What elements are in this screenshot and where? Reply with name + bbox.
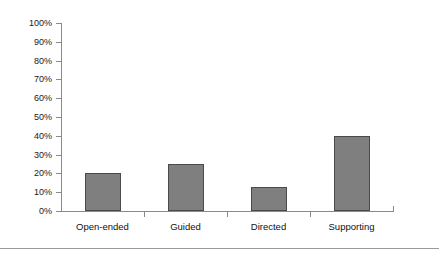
x-axis-category-label: Supporting (310, 221, 393, 232)
bar (251, 187, 287, 211)
y-axis-tick-label: 20% (34, 169, 52, 178)
x-axis-tick (227, 212, 228, 217)
y-axis-tick (56, 117, 61, 118)
x-axis-category-label: Guided (144, 221, 227, 232)
y-axis-tick (56, 173, 61, 174)
y-axis-tick-label: 60% (34, 94, 52, 103)
y-axis-tick (56, 192, 61, 193)
x-axis-end-tick (393, 206, 394, 212)
y-axis-tick (56, 61, 61, 62)
bar (334, 136, 370, 211)
y-axis-tick-label: 50% (34, 113, 52, 122)
bar-chart-figure: 100%90%80%70%60%50%40%30%20%10%0% Open-e… (0, 0, 439, 257)
x-axis-category-label: Open-ended (61, 221, 144, 232)
y-axis-tick (56, 79, 61, 80)
y-axis-tick (56, 98, 61, 99)
y-axis-line (61, 23, 62, 212)
y-axis-tick (56, 136, 61, 137)
y-axis-tick (56, 155, 61, 156)
y-axis-tick-label: 70% (34, 75, 52, 84)
bottom-separator-rule (0, 248, 439, 249)
x-axis-tick (144, 212, 145, 217)
y-axis-tick (56, 23, 61, 24)
y-axis-tick (56, 211, 61, 212)
x-axis-tick (310, 212, 311, 217)
y-axis-tick-label: 30% (34, 151, 52, 160)
bar (85, 173, 121, 211)
y-axis-tick (56, 42, 61, 43)
y-axis-tick-label: 40% (34, 132, 52, 141)
bar (168, 164, 204, 211)
x-axis-category-label: Directed (227, 221, 310, 232)
y-axis-tick-label: 0% (39, 207, 52, 216)
y-axis-tick-label: 80% (34, 57, 52, 66)
y-axis-tick-label: 10% (34, 188, 52, 197)
y-axis-tick-label: 100% (29, 19, 52, 28)
y-axis-tick-label: 90% (34, 38, 52, 47)
